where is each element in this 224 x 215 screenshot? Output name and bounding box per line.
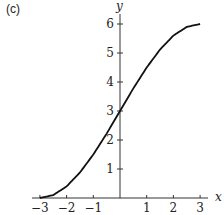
x-tick-label: −2 [58, 201, 76, 215]
x-tick-label: 3 [196, 201, 204, 215]
y-tick-label: 3 [106, 104, 114, 118]
y-axis-label: y [115, 0, 123, 13]
y-tick-label: 4 [106, 75, 114, 89]
x-tick-label: 2 [170, 201, 178, 215]
y-tick-label: 5 [106, 46, 114, 60]
axes [32, 14, 208, 198]
x-tick-label: −3 [31, 201, 49, 215]
x-axis-label: x [215, 190, 222, 204]
tick-labels: xy−3−2−1123123456 [31, 0, 222, 215]
y-tick-label: 2 [106, 133, 114, 147]
y-tick-label: 6 [106, 17, 114, 31]
line-chart: xy−3−2−1123123456 [0, 0, 224, 215]
x-tick-label: 1 [143, 201, 151, 215]
y-tick-label: 1 [106, 162, 114, 176]
x-tick-label: −1 [84, 201, 102, 215]
